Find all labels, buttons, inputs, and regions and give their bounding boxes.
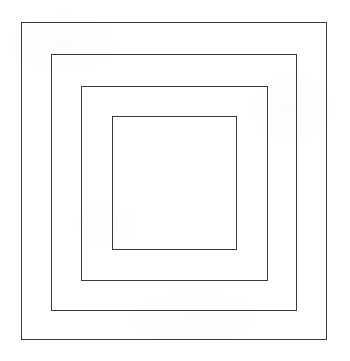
figure-canvas — [0, 0, 350, 361]
inner-square — [112, 116, 237, 250]
